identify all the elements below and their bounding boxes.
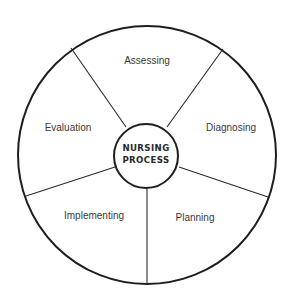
nursing-process-diagram: NURSING PROCESS Assessing Diagnosing Pla… [0, 0, 285, 304]
segment-label-planning: Planning [176, 212, 215, 223]
divider-evaluation-assessing [71, 48, 126, 127]
divider-assessing-diagnosing [167, 49, 223, 127]
center-label-line1: NURSING [122, 143, 169, 153]
segment-label-assessing: Assessing [124, 55, 170, 66]
segment-label-diagnosing: Diagnosing [206, 122, 256, 133]
divider-implementing-evaluation [26, 167, 115, 196]
divider-diagnosing-planning [179, 167, 268, 197]
segment-label-implementing: Implementing [64, 210, 124, 221]
center-label-line2: PROCESS [122, 155, 169, 165]
segment-label-evaluation: Evaluation [45, 122, 92, 133]
